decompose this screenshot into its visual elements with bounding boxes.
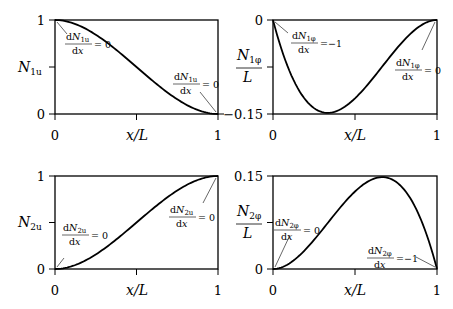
ytick-bottom-n2phi: 0 [255, 262, 263, 277]
svg-text:N2φ: N2φ [236, 203, 261, 221]
shape-functions-figure: 1 0 0 −0.15 1 0 0.15 0 0 1 0 1 0 1 0 1 x… [0, 0, 453, 309]
svg-text:dx: dx [374, 259, 386, 270]
ytick-bottom-n1u: 0 [37, 107, 45, 122]
svg-text:= 0: = 0 [202, 79, 219, 90]
ytick-bottom-n2u: 0 [37, 262, 45, 277]
xlabel-n1phi: x/L [344, 127, 366, 143]
svg-text:dx: dx [176, 218, 188, 229]
svg-text:dN1φ: dN1φ [396, 57, 420, 70]
ylabel-n1u: N1u [17, 59, 42, 77]
xlabel-n2phi: x/L [344, 282, 366, 298]
ytick-top-n1u: 1 [37, 13, 45, 28]
annotation-dn2u-dx-at-0: dN2udx= 0 [62, 222, 108, 247]
svg-text:dN2φ: dN2φ [368, 245, 392, 258]
svg-text:dx: dx [281, 231, 293, 242]
svg-text:= 0: = 0 [94, 39, 111, 50]
svg-text:= 0: = 0 [424, 65, 441, 76]
ytick-bottom-n1phi: −0.15 [223, 107, 263, 122]
ylabel-n1phi: N1φ L [236, 47, 262, 85]
svg-text:dN1u: dN1u [66, 31, 90, 44]
xtick-1-n2phi: 1 [433, 283, 441, 298]
annotation-dn1phi-dx-at-0: dN1φdx=−1 [291, 30, 342, 55]
svg-text:dx: dx [72, 45, 84, 56]
svg-text:= 0: = 0 [198, 212, 215, 223]
xtick-0-n2u: 0 [51, 283, 59, 298]
annotation-dn1phi-dx-at-1: dN1φdx= 0 [395, 57, 441, 82]
svg-text:N1u: N1u [17, 59, 42, 77]
xtick-1-n1u: 1 [214, 128, 222, 143]
curve-n2u [55, 176, 218, 269]
svg-text:dx: dx [180, 85, 192, 96]
xtick-0-n1phi: 0 [269, 128, 277, 143]
xtick-1-n1phi: 1 [433, 128, 441, 143]
annotation-dn2u-dx-at-1: dN2udx= 0 [169, 204, 215, 229]
annotation-dn2phi-dx-at-1: dN2φdx=−1 [367, 245, 418, 270]
svg-text:dx: dx [402, 71, 414, 82]
svg-text:=−1: =−1 [396, 253, 418, 264]
annotation-dn1u-dx-at-1: dN1udx= 0 [173, 71, 219, 96]
svg-text:L: L [242, 225, 252, 241]
svg-text:= 0: = 0 [91, 230, 108, 241]
annotation-dn1u-dx-at-0: dN1udx= 0 [65, 31, 111, 56]
xlabel-n1u: x/L [126, 127, 148, 143]
svg-text:dx: dx [69, 236, 81, 247]
xtick-1-n2u: 1 [214, 283, 222, 298]
ytick-top-n2phi: 0.15 [234, 169, 263, 184]
ytick-top-n1phi: 0 [255, 13, 263, 28]
svg-text:N1φ: N1φ [236, 47, 261, 65]
svg-text:dN2u: dN2u [63, 222, 87, 235]
ytick-top-n2u: 1 [37, 169, 45, 184]
svg-text:= 0: = 0 [303, 225, 320, 236]
svg-text:dN2u: dN2u [170, 204, 194, 217]
svg-text:dN2φ: dN2φ [275, 217, 299, 230]
svg-text:dN1φ: dN1φ [292, 30, 316, 43]
xtick-0-n2phi: 0 [269, 283, 277, 298]
svg-text:dx: dx [298, 44, 310, 55]
svg-text:=−1: =−1 [320, 38, 342, 49]
xtick-0-n1u: 0 [51, 128, 59, 143]
svg-text:dN1u: dN1u [174, 71, 198, 84]
ylabel-n2u: N2u [17, 214, 42, 232]
annotation-dn2phi-dx-at-0: dN2φdx= 0 [274, 217, 320, 242]
svg-text:N2u: N2u [17, 214, 42, 232]
ylabel-n2phi: N2φ L [236, 203, 262, 241]
xlabel-n2u: x/L [126, 282, 148, 298]
svg-text:L: L [242, 69, 252, 85]
